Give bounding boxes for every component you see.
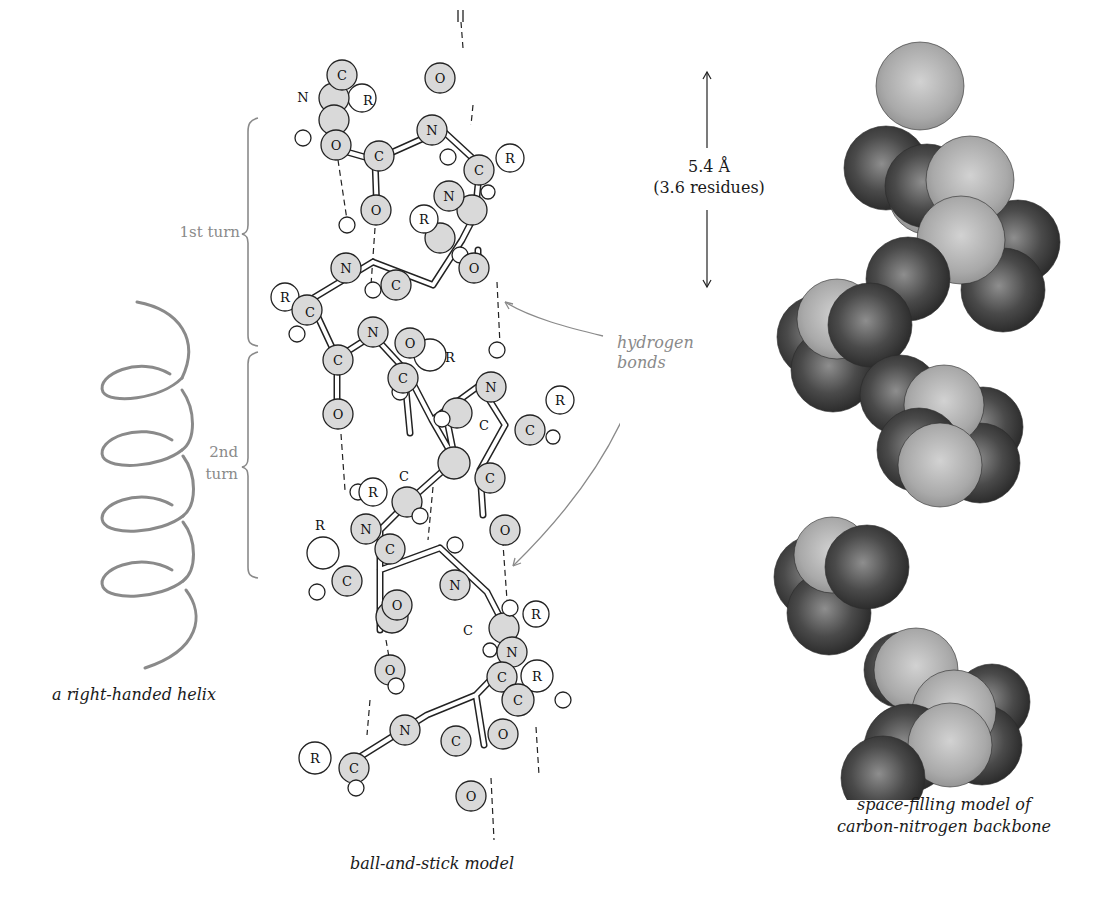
svg-text:R: R <box>310 751 321 766</box>
svg-text:O: O <box>405 336 416 351</box>
svg-text:O: O <box>498 727 509 742</box>
svg-text:O: O <box>371 203 382 218</box>
space-filling-model <box>740 40 1104 800</box>
svg-text:C: C <box>399 469 409 484</box>
hydrogen-bonds-label-line1: hydrogen <box>617 333 694 353</box>
svg-text:O: O <box>333 407 344 422</box>
svg-text:C: C <box>497 670 507 685</box>
svg-text:N: N <box>449 578 460 593</box>
svg-text:R: R <box>363 93 374 108</box>
svg-text:C: C <box>374 149 384 164</box>
svg-text:C: C <box>333 353 343 368</box>
space-filling-caption-line2: carbon-nitrogen backbone <box>784 816 1104 838</box>
svg-text:R: R <box>505 151 516 166</box>
svg-text:O: O <box>385 663 396 678</box>
svg-text:N: N <box>506 645 517 660</box>
svg-text:R: R <box>531 607 542 622</box>
svg-text:N: N <box>360 522 371 537</box>
svg-text:R: R <box>315 518 326 533</box>
svg-text:N: N <box>297 90 308 105</box>
svg-text:N: N <box>426 123 437 138</box>
svg-text:C: C <box>463 623 473 638</box>
svg-text:C: C <box>485 471 495 486</box>
hydrogen-bonds-label: hydrogen bonds <box>617 333 694 373</box>
svg-text:C: C <box>337 68 347 83</box>
svg-text:O: O <box>500 523 511 538</box>
hydrogen-bonds-label-line2: bonds <box>617 353 694 373</box>
ball-and-stick-model: .b { stroke:#222; stroke-width:1.3; fill… <box>0 0 620 899</box>
svg-text:C: C <box>451 734 461 749</box>
svg-text:C: C <box>398 371 408 386</box>
svg-text:R: R <box>419 212 430 227</box>
ball-and-stick-caption: ball-and-stick model <box>350 854 514 873</box>
svg-text:O: O <box>435 71 446 86</box>
svg-text:N: N <box>340 261 351 276</box>
svg-text:O: O <box>466 789 477 804</box>
svg-text:C: C <box>513 693 523 708</box>
svg-text:R: R <box>445 350 456 365</box>
svg-text:R: R <box>532 669 543 684</box>
space-filling-caption-line1: space-filling model of <box>784 794 1104 816</box>
svg-text:N: N <box>367 325 378 340</box>
svg-text:C: C <box>349 761 359 776</box>
svg-text:C: C <box>474 163 484 178</box>
svg-text:C: C <box>342 574 352 589</box>
svg-text:C: C <box>479 418 489 433</box>
svg-text:O: O <box>469 261 480 276</box>
svg-text:R: R <box>368 485 379 500</box>
alpha-helix-figure: 1st turn 2nd turn a right-handed helix .… <box>0 0 1104 899</box>
svg-text:C: C <box>391 278 401 293</box>
svg-text:N: N <box>485 380 496 395</box>
space-filling-caption: space-filling model of carbon-nitrogen b… <box>784 794 1104 838</box>
svg-text:C: C <box>305 305 315 320</box>
svg-text:N: N <box>399 723 410 738</box>
svg-text:R: R <box>555 393 566 408</box>
svg-text:C: C <box>385 542 395 557</box>
svg-text:N: N <box>443 189 454 204</box>
svg-text:R: R <box>280 290 291 305</box>
svg-text:O: O <box>392 598 403 613</box>
svg-text:C: C <box>525 423 535 438</box>
svg-text:O: O <box>331 138 342 153</box>
